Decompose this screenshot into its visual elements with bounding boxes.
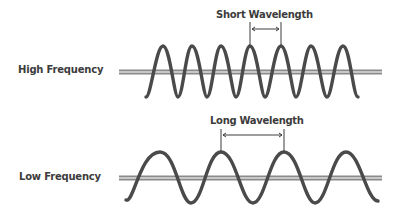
long-wavelength-marker (221, 129, 284, 152)
wave-graphics (0, 0, 396, 217)
short-wavelength-marker (250, 22, 281, 46)
